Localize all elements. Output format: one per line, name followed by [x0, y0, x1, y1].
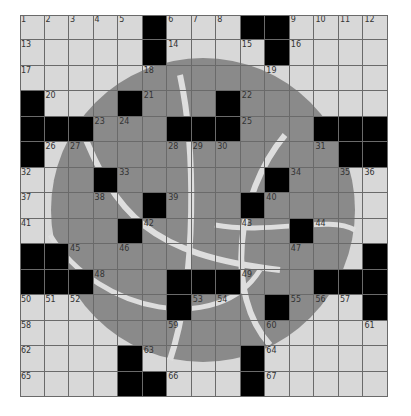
grid-cell[interactable] — [94, 219, 119, 244]
grid-cell[interactable] — [69, 372, 94, 397]
grid-cell[interactable] — [241, 142, 266, 167]
grid-cell[interactable] — [216, 244, 241, 269]
grid-cell[interactable] — [167, 91, 192, 116]
grid-cell[interactable]: 8 — [216, 15, 241, 40]
grid-cell[interactable] — [118, 142, 143, 167]
grid-cell[interactable] — [314, 321, 339, 346]
grid-cell[interactable] — [94, 346, 119, 371]
grid-cell[interactable]: 37 — [20, 193, 45, 218]
grid-cell[interactable]: 43 — [241, 219, 266, 244]
grid-cell[interactable] — [216, 193, 241, 218]
grid-cell[interactable]: 13 — [20, 40, 45, 65]
grid-cell[interactable]: 33 — [118, 168, 143, 193]
grid-cell[interactable]: 66 — [167, 372, 192, 397]
grid-cell[interactable]: 6 — [167, 15, 192, 40]
grid-cell[interactable]: 56 — [314, 295, 339, 320]
grid-cell[interactable] — [314, 91, 339, 116]
grid-cell[interactable]: 3 — [69, 15, 94, 40]
grid-cell[interactable] — [45, 346, 70, 371]
grid-cell[interactable] — [69, 40, 94, 65]
grid-cell[interactable] — [192, 244, 217, 269]
grid-cell[interactable] — [118, 193, 143, 218]
grid-cell[interactable] — [143, 321, 168, 346]
grid-cell[interactable] — [192, 66, 217, 91]
grid-cell[interactable] — [94, 244, 119, 269]
grid-cell[interactable]: 41 — [20, 219, 45, 244]
grid-cell[interactable]: 23 — [94, 117, 119, 142]
grid-cell[interactable] — [290, 91, 315, 116]
grid-cell[interactable] — [339, 346, 364, 371]
grid-cell[interactable] — [118, 40, 143, 65]
grid-cell[interactable]: 58 — [20, 321, 45, 346]
grid-cell[interactable] — [265, 142, 290, 167]
grid-cell[interactable] — [216, 168, 241, 193]
grid-cell[interactable] — [339, 321, 364, 346]
grid-cell[interactable] — [94, 321, 119, 346]
grid-cell[interactable] — [45, 168, 70, 193]
grid-cell[interactable]: 21 — [143, 91, 168, 116]
grid-cell[interactable] — [45, 40, 70, 65]
grid-cell[interactable]: 27 — [69, 142, 94, 167]
grid-cell[interactable]: 28 — [167, 142, 192, 167]
grid-cell[interactable] — [363, 219, 388, 244]
grid-cell[interactable]: 29 — [192, 142, 217, 167]
grid-cell[interactable] — [290, 270, 315, 295]
grid-cell[interactable] — [94, 372, 119, 397]
grid-cell[interactable] — [216, 66, 241, 91]
grid-cell[interactable] — [241, 168, 266, 193]
grid-cell[interactable] — [363, 372, 388, 397]
grid-cell[interactable]: 31 — [314, 142, 339, 167]
grid-cell[interactable] — [118, 321, 143, 346]
grid-cell[interactable]: 2 — [45, 15, 70, 40]
grid-cell[interactable]: 46 — [118, 244, 143, 269]
grid-cell[interactable] — [143, 244, 168, 269]
grid-cell[interactable]: 63 — [143, 346, 168, 371]
grid-cell[interactable] — [143, 295, 168, 320]
grid-cell[interactable] — [363, 193, 388, 218]
grid-cell[interactable] — [45, 193, 70, 218]
grid-cell[interactable] — [69, 91, 94, 116]
grid-cell[interactable]: 61 — [363, 321, 388, 346]
grid-cell[interactable] — [192, 168, 217, 193]
grid-cell[interactable]: 57 — [339, 295, 364, 320]
grid-cell[interactable] — [192, 346, 217, 371]
grid-cell[interactable]: 54 — [216, 295, 241, 320]
grid-cell[interactable]: 36 — [363, 168, 388, 193]
grid-cell[interactable] — [290, 346, 315, 371]
grid-cell[interactable] — [339, 66, 364, 91]
grid-cell[interactable] — [216, 346, 241, 371]
grid-cell[interactable]: 64 — [265, 346, 290, 371]
grid-cell[interactable]: 62 — [20, 346, 45, 371]
grid-cell[interactable] — [290, 321, 315, 346]
grid-cell[interactable] — [143, 117, 168, 142]
grid-cell[interactable] — [167, 244, 192, 269]
grid-cell[interactable] — [192, 91, 217, 116]
grid-cell[interactable]: 5 — [118, 15, 143, 40]
grid-cell[interactable] — [69, 346, 94, 371]
grid-cell[interactable]: 47 — [290, 244, 315, 269]
grid-cell[interactable] — [363, 40, 388, 65]
grid-cell[interactable] — [339, 193, 364, 218]
grid-cell[interactable] — [363, 346, 388, 371]
grid-cell[interactable]: 55 — [290, 295, 315, 320]
grid-cell[interactable] — [241, 295, 266, 320]
grid-cell[interactable] — [290, 117, 315, 142]
grid-cell[interactable] — [192, 321, 217, 346]
grid-cell[interactable] — [45, 66, 70, 91]
grid-cell[interactable] — [94, 295, 119, 320]
grid-cell[interactable] — [69, 321, 94, 346]
grid-cell[interactable] — [192, 372, 217, 397]
grid-cell[interactable] — [45, 321, 70, 346]
grid-cell[interactable]: 7 — [192, 15, 217, 40]
grid-cell[interactable]: 53 — [192, 295, 217, 320]
grid-cell[interactable]: 50 — [20, 295, 45, 320]
grid-cell[interactable]: 11 — [339, 15, 364, 40]
grid-cell[interactable]: 9 — [290, 15, 315, 40]
grid-cell[interactable] — [143, 168, 168, 193]
grid-cell[interactable] — [69, 193, 94, 218]
grid-cell[interactable]: 18 — [143, 66, 168, 91]
grid-cell[interactable] — [265, 117, 290, 142]
grid-cell[interactable] — [290, 372, 315, 397]
grid-cell[interactable]: 16 — [290, 40, 315, 65]
grid-cell[interactable]: 32 — [20, 168, 45, 193]
